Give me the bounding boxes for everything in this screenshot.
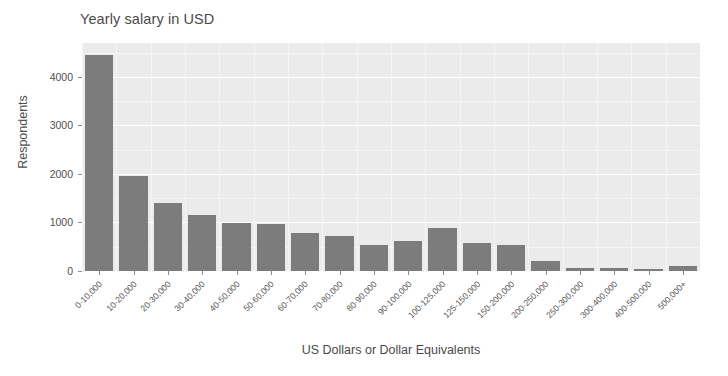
bars-layer: [82, 43, 700, 271]
x-tick-label: 10-20,000: [104, 279, 138, 313]
x-axis-title: US Dollars or Dollar Equivalents: [82, 343, 700, 357]
y-tick-mark: [78, 174, 82, 175]
x-tick-mark: [237, 271, 238, 275]
bar: [531, 261, 559, 271]
bar: [325, 236, 353, 271]
x-tick-mark: [134, 271, 135, 275]
x-tick-label: 500,000+: [655, 279, 688, 312]
x-tick-mark: [443, 271, 444, 275]
x-tick-label: 0-10,000: [73, 279, 104, 310]
x-tick-label: 20-30,000: [138, 279, 172, 313]
bar: [188, 215, 216, 271]
x-tick-mark: [305, 271, 306, 275]
x-tick-label: 50-60,000: [241, 279, 275, 313]
y-tick-mark: [78, 271, 82, 272]
x-tick-mark: [580, 271, 581, 275]
y-tick-mark: [78, 222, 82, 223]
y-tick-label: 0: [67, 265, 73, 277]
x-tick-label: 40-50,000: [207, 279, 241, 313]
bar: [360, 245, 388, 271]
x-tick-mark: [408, 271, 409, 275]
x-tick-mark: [477, 271, 478, 275]
bar-chart: Yearly salary in USD Respondents 0100020…: [0, 0, 728, 376]
y-tick-label: 2000: [50, 168, 73, 180]
x-tick-label: 60-70,000: [276, 279, 310, 313]
x-tick-mark: [683, 271, 684, 275]
x-tick-mark: [374, 271, 375, 275]
bar: [154, 203, 182, 271]
x-tick-label: 30-40,000: [173, 279, 207, 313]
bar: [497, 245, 525, 271]
x-tick-mark: [99, 271, 100, 275]
x-tick-mark: [511, 271, 512, 275]
x-tick-mark: [649, 271, 650, 275]
y-tick-label: 3000: [50, 119, 73, 131]
x-tick-mark: [614, 271, 615, 275]
x-tick-label: 70-80,000: [310, 279, 344, 313]
y-tick-label: 1000: [50, 216, 73, 228]
x-tick-label: 80-90,000: [344, 279, 378, 313]
bar: [119, 176, 147, 271]
bar: [463, 243, 491, 271]
x-tick-mark: [202, 271, 203, 275]
bar: [394, 241, 422, 271]
x-tick-mark: [340, 271, 341, 275]
x-tick-mark: [168, 271, 169, 275]
bar: [428, 228, 456, 271]
bar: [257, 224, 285, 271]
chart-title: Yearly salary in USD: [80, 11, 214, 27]
x-tick-mark: [546, 271, 547, 275]
bar: [85, 55, 113, 271]
y-tick-label: 4000: [50, 71, 73, 83]
y-axis-title: Respondents: [16, 72, 30, 192]
y-tick-mark: [78, 125, 82, 126]
x-tick-mark: [271, 271, 272, 275]
y-tick-mark: [78, 77, 82, 78]
bar: [291, 233, 319, 271]
plot-panel: [82, 43, 700, 271]
bar: [222, 223, 250, 271]
